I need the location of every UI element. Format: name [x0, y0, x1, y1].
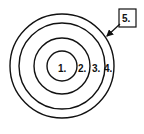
concentric-circles-diagram: 1. 2. 3. 4. 5.	[0, 0, 144, 134]
label-1: 1.	[58, 63, 67, 74]
label-3: 3.	[92, 63, 101, 74]
label-4: 4.	[104, 63, 113, 74]
label-2: 2.	[78, 63, 87, 74]
label-5: 5.	[122, 13, 131, 24]
callout-arrow	[107, 24, 120, 36]
